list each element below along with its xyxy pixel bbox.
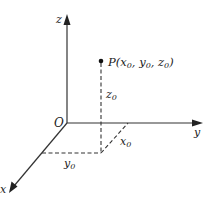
z-axis-label: z — [55, 13, 62, 26]
y0-label: y0 — [63, 157, 75, 171]
point-label-comma2: , — [151, 55, 158, 69]
x-axis-label: x — [0, 183, 7, 196]
point-label-prefix: P( — [107, 55, 121, 69]
z0-sub: 0 — [112, 93, 117, 102]
point-label-suffix: ) — [168, 55, 174, 69]
x-axis — [14, 123, 67, 186]
point-label-comma1: , — [132, 55, 139, 69]
y0-sub: 0 — [70, 162, 75, 171]
z0-label: z0 — [105, 88, 117, 102]
coordinate-diagram: z y x O P(x0, y0, z0) z0 x0 y0 — [0, 0, 217, 200]
x0-sub: 0 — [126, 140, 131, 149]
point-p — [99, 59, 104, 64]
x0-label: x0 — [120, 135, 131, 149]
origin-label: O — [54, 116, 64, 130]
point-p-label: P(x0, y0, z0) — [107, 55, 174, 70]
y-axis-label: y — [193, 126, 201, 139]
z-axis-arrowhead — [64, 14, 71, 25]
